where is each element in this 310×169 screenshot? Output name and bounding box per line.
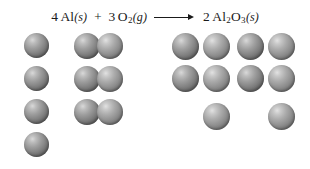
aluminum-oxide-atom-sphere — [268, 103, 295, 130]
molecular-models — [0, 0, 310, 169]
oxygen-atom-sphere — [97, 33, 123, 59]
aluminum-oxide-atom-sphere — [268, 65, 295, 92]
aluminum-oxide-atom-sphere — [203, 33, 230, 60]
aluminum-oxide-atom-sphere — [237, 65, 264, 92]
oxygen-atom-sphere — [97, 66, 123, 92]
oxygen-atom-sphere — [97, 99, 123, 125]
aluminum-oxide-atom-sphere — [172, 65, 199, 92]
aluminum-oxide-atom-sphere — [268, 33, 295, 60]
aluminum-oxide-atom-sphere — [203, 103, 230, 130]
aluminum-oxide-atom-sphere — [237, 33, 264, 60]
aluminum-atom-sphere — [24, 99, 49, 124]
aluminum-atom-sphere — [24, 66, 49, 91]
aluminum-atom-sphere — [24, 132, 49, 157]
aluminum-oxide-atom-sphere — [203, 65, 230, 92]
aluminum-oxide-atom-sphere — [172, 33, 199, 60]
aluminum-atom-sphere — [24, 33, 49, 58]
